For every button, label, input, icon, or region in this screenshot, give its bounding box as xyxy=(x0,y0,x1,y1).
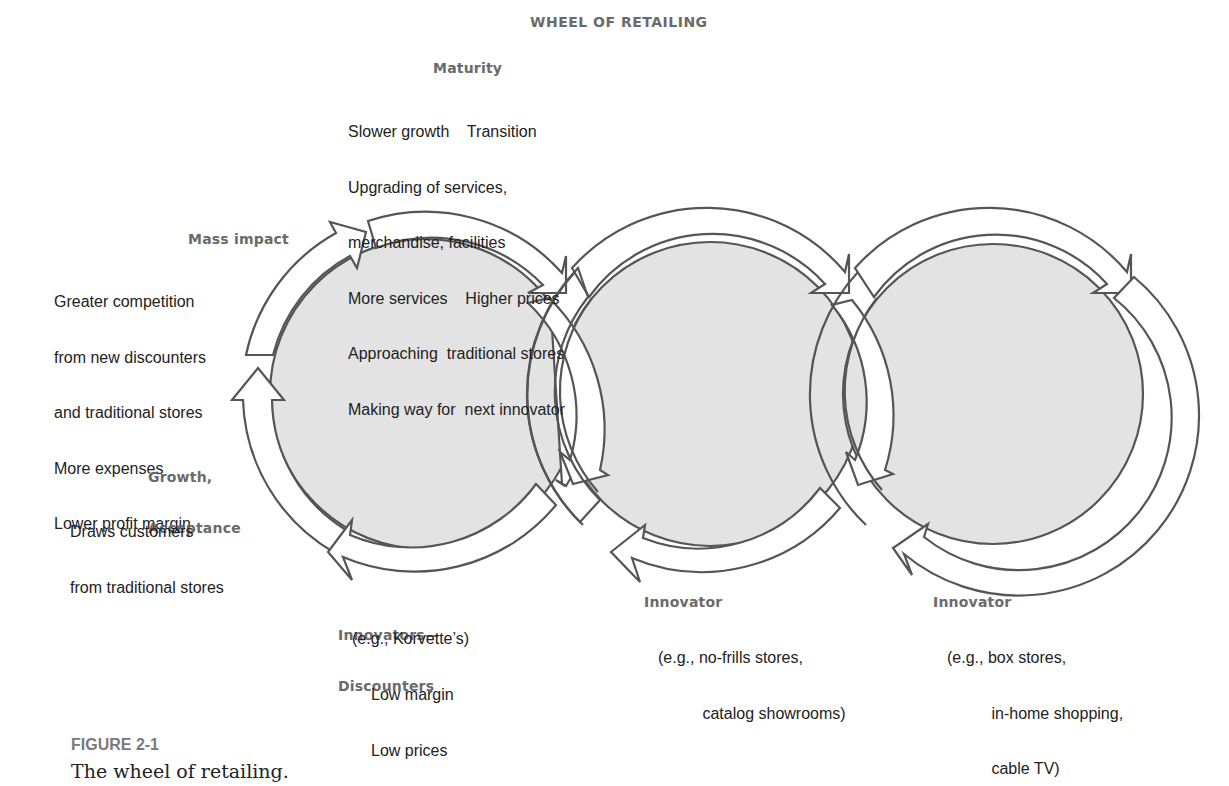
mass-impact-line: and traditional stores xyxy=(54,404,206,423)
innovators-discounters-line: Low margin xyxy=(371,686,524,705)
innovator-3-heading: Innovator xyxy=(933,594,1011,611)
mass-impact-line: Greater competition xyxy=(54,293,206,312)
maturity-line: Making way for next innovator xyxy=(348,401,565,420)
innovator-2-heading: Innovator xyxy=(644,594,722,611)
mass-impact-line: from new discounters xyxy=(54,349,206,368)
innovator-3-details: (e.g., box stores, in-home shopping, cab… xyxy=(947,612,1123,786)
innovators-discounters-example: (e.g., Korvette’s) xyxy=(352,630,469,649)
innovator-2-line: catalog showrooms) xyxy=(658,705,846,724)
figure-label: FIGURE 2-1 xyxy=(71,736,159,754)
maturity-line: Slower growth Transition xyxy=(348,123,565,142)
innovator-2-details: (e.g., no-frills stores, catalog showroo… xyxy=(658,612,846,742)
maturity-line: Upgrading of services, xyxy=(348,179,565,198)
innovators-discounters-line: Low prices xyxy=(371,742,524,761)
innovator-3-line: cable TV) xyxy=(947,760,1123,779)
maturity-line: More services Higher prices xyxy=(348,290,565,309)
figure-caption: The wheel of retailing. xyxy=(71,760,289,782)
maturity-heading: Maturity xyxy=(433,60,502,77)
diagram-title: WHEEL OF RETAILING xyxy=(530,14,708,30)
growth-line: from traditional stores xyxy=(70,579,224,598)
growth-line: Draws customers xyxy=(70,523,224,542)
maturity-line: merchandise, facilities xyxy=(348,234,565,253)
innovator-2-line: (e.g., no-frills stores, xyxy=(658,649,846,668)
maturity-line: Approaching traditional stores xyxy=(348,345,565,364)
innovator-3-line: (e.g., box stores, xyxy=(947,649,1123,668)
mass-impact-heading: Mass impact xyxy=(188,231,289,248)
maturity-details: Slower growth Transition Upgrading of se… xyxy=(348,86,565,438)
innovators-discounters-details: Low margin Low prices Few services Inexp… xyxy=(371,649,524,786)
innovator-3-line: in-home shopping, xyxy=(947,705,1123,724)
growth-heading-line: Growth, xyxy=(148,469,241,486)
growth-details: Draws customers from traditional stores xyxy=(70,486,224,616)
